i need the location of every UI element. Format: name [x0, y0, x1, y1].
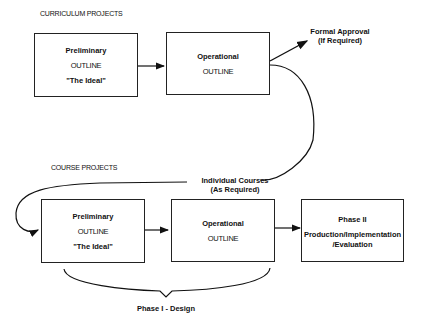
curriculum-preliminary-box: Preliminary OUTLINE "The Ideal"	[34, 33, 138, 97]
curriculum-operational-box: Operational OUTLINE	[166, 32, 270, 95]
box-title: Preliminary	[66, 46, 107, 55]
course-projects-label: COURSE PROJECTS	[51, 164, 117, 171]
phase2-line2: /Evaluation	[332, 240, 372, 249]
course-preliminary-box: Preliminary OUTLINE "The Ideal"	[41, 199, 145, 263]
box-title: Phase II	[338, 215, 366, 224]
box-title: Operational	[202, 219, 244, 228]
box-title: Preliminary	[73, 212, 114, 221]
box-outline: OUTLINE	[203, 67, 233, 76]
individual-courses-note: Individual Courses (As Required)	[180, 176, 290, 194]
approval-line1: Formal Approval	[300, 27, 380, 36]
box-title: Operational	[197, 52, 239, 61]
box-outline: OUTLINE	[71, 61, 101, 70]
box-subtitle: "The Ideal"	[66, 76, 106, 85]
course-operational-box: Operational OUTLINE	[171, 199, 275, 262]
formal-approval-note: Formal Approval (If Required)	[300, 27, 380, 45]
box-outline: OUTLINE	[208, 234, 238, 243]
curriculum-projects-label: CURRICULUM PROJECTS	[40, 10, 123, 17]
phase1-brace	[64, 268, 270, 297]
connector-line2: (As Required)	[180, 185, 290, 194]
approval-line2: (If Required)	[300, 36, 380, 45]
phase2-line1: Production/Implementation	[304, 230, 401, 239]
box-outline: OUTLINE	[78, 227, 108, 236]
phase2-box: Phase II Production/Implementation /Eval…	[301, 199, 404, 262]
connector-line1: Individual Courses	[180, 176, 290, 185]
box-subtitle: "The Ideal"	[73, 242, 113, 251]
phase1-design-label: Phase I - Design	[120, 304, 212, 313]
